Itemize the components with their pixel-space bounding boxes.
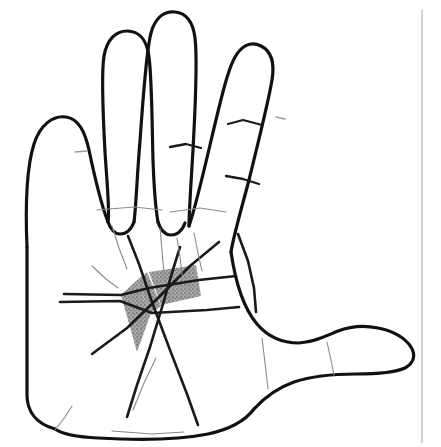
canvas-background bbox=[0, 0, 441, 447]
crease-index-finger-mark bbox=[75, 151, 87, 152]
figure-root: Line drawing of an open left hand, palm … bbox=[0, 0, 441, 447]
hand-diagram bbox=[0, 0, 441, 447]
